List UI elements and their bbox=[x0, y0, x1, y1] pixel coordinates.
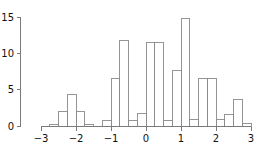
histogram-bar bbox=[137, 114, 146, 126]
histogram-bar bbox=[155, 42, 164, 126]
y-axis-tick-label: 0 bbox=[8, 121, 14, 132]
y-axis-tick-label: 5 bbox=[8, 84, 14, 95]
x-axis-tick-label: 2 bbox=[213, 133, 219, 144]
x-axis-tick-label: 3 bbox=[248, 133, 254, 144]
histogram-bar bbox=[234, 99, 243, 126]
x-axis-tick-label: 0 bbox=[143, 133, 149, 144]
histogram-bar bbox=[76, 111, 85, 126]
histogram-bar bbox=[120, 40, 129, 126]
x-axis-ticks bbox=[41, 127, 251, 131]
y-axis-ticks bbox=[17, 17, 21, 126]
histogram-bar bbox=[207, 78, 216, 126]
histogram-bars bbox=[50, 18, 251, 126]
histogram-bar bbox=[242, 123, 251, 126]
histogram-bar bbox=[199, 78, 208, 126]
histogram-bar bbox=[59, 111, 68, 126]
y-axis-tick-label: 10 bbox=[1, 48, 14, 59]
histogram-bar bbox=[164, 121, 173, 126]
x-axis-tick-label: −2 bbox=[69, 133, 84, 144]
histogram-bar bbox=[129, 120, 138, 126]
y-axis-tick-labels: 051015 bbox=[1, 12, 14, 132]
histogram-chart: 051015 −3−2−10123 bbox=[0, 0, 263, 152]
x-axis-tick-label: 1 bbox=[178, 133, 184, 144]
histogram-bar bbox=[146, 42, 155, 126]
histogram-bar bbox=[85, 125, 94, 126]
histogram-bar bbox=[190, 119, 199, 126]
x-axis-tick-label: −3 bbox=[34, 133, 49, 144]
histogram-plot-area: 051015 −3−2−10123 bbox=[0, 0, 263, 152]
histogram-bar bbox=[67, 95, 76, 126]
y-axis-tick-label: 15 bbox=[1, 12, 14, 23]
histogram-bar bbox=[102, 121, 111, 126]
histogram-bar bbox=[181, 18, 190, 126]
histogram-bar bbox=[225, 114, 234, 126]
histogram-bar bbox=[111, 79, 120, 126]
x-axis-tick-label: −1 bbox=[104, 133, 119, 144]
x-axis-tick-labels: −3−2−10123 bbox=[34, 133, 255, 144]
histogram-bar bbox=[50, 125, 59, 126]
histogram-bar bbox=[172, 71, 181, 126]
histogram-bar bbox=[216, 119, 225, 126]
